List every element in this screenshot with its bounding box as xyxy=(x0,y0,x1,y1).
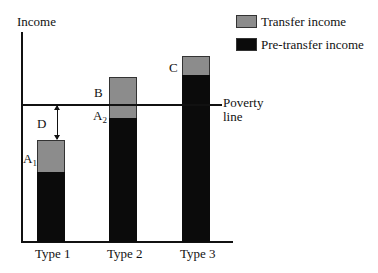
annotation-a2-letter: A xyxy=(93,108,102,123)
poverty-line-tick xyxy=(210,104,221,106)
annotation-b: B xyxy=(94,86,103,99)
poverty-line-label-2: line xyxy=(223,110,243,123)
annotation-a2-sub: 2 xyxy=(102,115,107,125)
category-label-type-2: Type 2 xyxy=(107,247,143,260)
annotation-a2: A2 xyxy=(93,109,107,125)
category-label-type-3: Type 3 xyxy=(180,247,216,260)
annotation-a1-letter: A xyxy=(23,151,32,166)
annotation-c: C xyxy=(169,61,178,74)
category-label-type-1: Type 1 xyxy=(35,247,71,260)
bar-segment-pretransfer xyxy=(37,172,65,242)
poverty-line-label-1: Poverty xyxy=(223,96,263,109)
bar-type-2 xyxy=(109,77,137,242)
legend-swatch-transfer xyxy=(236,15,257,28)
annotation-d: D xyxy=(37,117,46,130)
annotation-a1-sub: 1 xyxy=(32,158,37,168)
poverty-line xyxy=(22,104,222,106)
bar-type-3 xyxy=(182,56,210,242)
legend-label-transfer: Transfer income xyxy=(261,15,346,28)
legend-swatch-pretransfer xyxy=(236,38,257,51)
bar-segment-pretransfer xyxy=(109,118,137,242)
bar-segment-transfer xyxy=(182,56,210,75)
bar-segment-transfer xyxy=(37,140,65,172)
y-axis-label: Income xyxy=(17,15,56,28)
bar-type-1 xyxy=(37,140,65,242)
bar-segment-pretransfer xyxy=(182,75,210,242)
annotation-a1: A1 xyxy=(23,152,37,168)
bar-segment-transfer xyxy=(109,77,137,118)
legend-label-pretransfer: Pre-transfer income xyxy=(261,38,364,51)
y-axis xyxy=(21,32,23,243)
arrow-down-icon xyxy=(54,135,60,140)
